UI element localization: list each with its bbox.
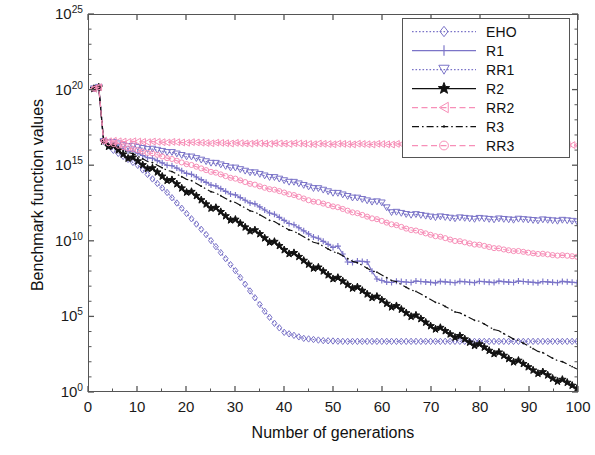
x-axis-title: Number of generations — [88, 424, 578, 442]
legend-item-rr1[interactable]: RR1 — [403, 60, 569, 79]
legend-label: EHO — [486, 24, 517, 40]
legend-marker-rr2 — [408, 98, 480, 117]
legend-label: R1 — [486, 43, 504, 59]
legend-item-rr2[interactable]: RR2 — [403, 98, 569, 117]
legend-marker-rr1 — [408, 60, 480, 79]
y-tick-label: 1015 — [55, 156, 83, 172]
x-tick-label: 100 — [548, 399, 595, 414]
legend-marker-r3 — [408, 117, 480, 136]
legend-marker-rr3 — [408, 136, 480, 155]
legend-item-r2[interactable]: R2 — [403, 79, 569, 98]
y-tick-label: 1020 — [55, 81, 83, 97]
legend-item-r1[interactable]: R1 — [403, 41, 569, 60]
y-tick-label: 1025 — [55, 5, 83, 21]
y-tick-label: 1010 — [55, 232, 83, 248]
legend-item-eho[interactable]: EHO — [403, 22, 569, 41]
legend-marker-eho — [408, 22, 480, 41]
legend-marker-r2 — [408, 79, 480, 98]
y-axis-title: Benchmark function values — [29, 65, 47, 325]
legend-label: RR2 — [486, 100, 515, 116]
legend-item-rr3[interactable]: RR3 — [403, 136, 569, 155]
legend: EHOR1RR1R2RR2R3RR3 — [402, 18, 570, 158]
figure: 1001051010101510201025 Benchmark functio… — [0, 0, 595, 455]
legend-label: RR3 — [486, 138, 515, 154]
legend-label: R2 — [486, 81, 504, 97]
legend-label: R3 — [486, 119, 504, 135]
y-tick-label: 100 — [61, 383, 83, 399]
legend-marker-r1 — [408, 41, 480, 60]
legend-label: RR1 — [486, 62, 515, 78]
y-tick-label: 105 — [61, 307, 83, 323]
legend-item-r3[interactable]: R3 — [403, 117, 569, 136]
